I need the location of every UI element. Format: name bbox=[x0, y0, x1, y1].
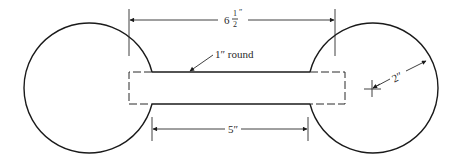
overall-dimension-denominator: 2 bbox=[233, 20, 237, 29]
shaft-hidden-right bbox=[310, 72, 345, 104]
radius-line-upper bbox=[406, 61, 426, 71]
radius-label: 2″ bbox=[390, 69, 404, 84]
overall-dimension-numerator: 1 bbox=[233, 9, 237, 18]
left-sphere-outline bbox=[24, 23, 152, 153]
shaft-length-label: 5″ bbox=[228, 123, 238, 135]
overall-dimension-unit: ″ bbox=[239, 8, 242, 17]
shaft-diameter-label: 1″ round bbox=[215, 48, 254, 60]
right-sphere-outline bbox=[310, 23, 438, 153]
radius-line-start-arrow bbox=[373, 84, 380, 88]
shaft-label-leader bbox=[190, 55, 213, 71]
dumbbell-drawing: 6 1 2 ″ 1″ round 5″ 2″ bbox=[0, 0, 458, 159]
overall-dimension-whole: 6 bbox=[224, 14, 230, 26]
shaft-hidden-left bbox=[129, 72, 152, 104]
